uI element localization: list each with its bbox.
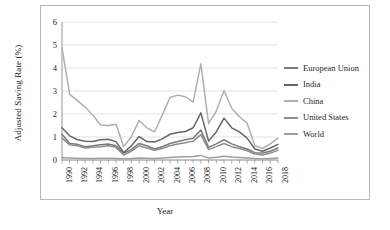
series-line-china [62, 48, 278, 149]
y-tick-label: 4 [41, 64, 57, 72]
x-tick-label: 2012 [235, 167, 243, 183]
series-line-world [62, 155, 278, 158]
y-tick-label: 6 [41, 18, 57, 26]
data-series-group [62, 48, 278, 159]
y-tick-label: 3 [41, 87, 57, 95]
x-tick-label: 1992 [81, 167, 89, 183]
y-tick-label: 1 [41, 133, 57, 141]
x-axis-title: Year [40, 206, 290, 216]
x-tick-label: 2000 [143, 167, 151, 183]
y-tick-label: 2 [41, 110, 57, 118]
chart-figure: Adjusted Saving Rate (%) 0123456 1990199… [0, 0, 390, 230]
legend-item-world[interactable]: World [284, 126, 370, 143]
legend-item-label: European Union [303, 64, 359, 73]
x-tick-label: 2014 [251, 167, 259, 183]
x-tick-label: 2018 [282, 167, 290, 183]
x-tick-label: 2002 [158, 167, 166, 183]
legend-line-swatch [284, 100, 298, 102]
y-axis-title: Adjusted Saving Rate (%) [13, 13, 23, 173]
x-tick-label: 2010 [220, 167, 228, 183]
legend-item-label: World [303, 130, 324, 139]
y-tick-label: 0 [41, 156, 57, 164]
legend-item-label: China [303, 97, 323, 106]
plot-area [62, 22, 278, 160]
legend-line-swatch [284, 67, 298, 69]
legend-line-swatch [284, 117, 298, 119]
x-tick-label: 2004 [174, 167, 182, 183]
legend-line-swatch [284, 133, 298, 135]
x-tick-label: 1998 [127, 167, 135, 183]
gridlines [62, 22, 278, 160]
legend-item-india[interactable]: India [284, 77, 370, 94]
x-tick-label: 1994 [96, 167, 104, 183]
x-tick-label: 1996 [112, 167, 120, 183]
legend-line-swatch [284, 84, 298, 86]
chart-legend: European UnionIndiaChinaUnited StatesWor… [284, 60, 370, 143]
legend-item-european-union[interactable]: European Union [284, 60, 370, 77]
x-tick-label: 2006 [189, 167, 197, 183]
legend-item-label: India [303, 80, 320, 89]
x-tick-label: 2008 [204, 167, 212, 183]
legend-item-united-states[interactable]: United States [284, 110, 370, 127]
y-tick-label: 5 [41, 41, 57, 49]
legend-item-china[interactable]: China [284, 93, 370, 110]
legend-item-label: United States [303, 113, 349, 122]
x-tick-label: 1990 [66, 167, 74, 183]
plot-canvas [62, 22, 278, 160]
x-tick-label: 2016 [266, 167, 274, 183]
